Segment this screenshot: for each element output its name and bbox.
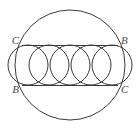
- label-top-left: C: [12, 34, 20, 46]
- figure-canvas: C B B C: [0, 0, 137, 131]
- label-top-right: B: [121, 34, 128, 46]
- label-bottom-right: C: [121, 83, 129, 95]
- geometry-figure: C B B C: [0, 0, 137, 131]
- label-bottom-left: B: [12, 83, 19, 95]
